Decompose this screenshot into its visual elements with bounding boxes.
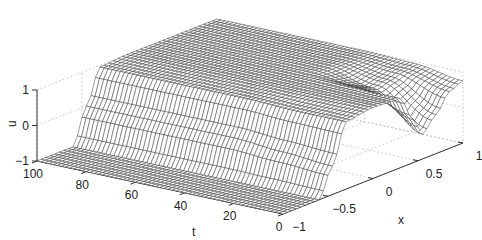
t-tick-label: 100: [23, 167, 43, 181]
x-tick-label: 0.5: [426, 167, 443, 181]
u-axis-label: u: [5, 120, 19, 127]
t-tick-label: 0: [276, 220, 283, 234]
t-axis-label: t: [192, 225, 196, 239]
u-tick-label: 0: [22, 119, 29, 133]
x-tick-label: −1: [292, 220, 306, 234]
t-tick-label: 20: [223, 209, 237, 223]
t-tick-label: 80: [76, 178, 90, 192]
x-tick-label: 0: [386, 185, 393, 199]
u-tick-label: −1: [15, 154, 29, 168]
mesh-surface: [37, 19, 463, 214]
u-tick-label: 1: [22, 83, 29, 97]
surface-plot: 10−1100806040200−1−0.500.51 x t u: [0, 0, 482, 240]
x-tick-label: 1: [476, 149, 482, 163]
t-tick-label: 60: [125, 188, 139, 202]
x-axis-label: x: [398, 213, 404, 227]
x-tick-label: −0.5: [332, 202, 356, 216]
t-tick-label: 40: [174, 199, 188, 213]
